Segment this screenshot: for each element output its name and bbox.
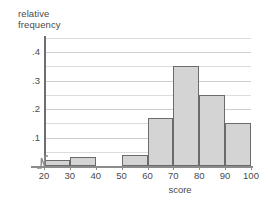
x-axis-line (31, 166, 253, 168)
gridline (44, 52, 251, 53)
x-tick-label: 100 (239, 170, 263, 181)
histogram-bar (225, 123, 251, 166)
x-tick-label: 50 (110, 170, 134, 181)
histogram-bar (173, 66, 199, 166)
x-tick-label: 90 (213, 170, 237, 181)
x-tick-label: 40 (84, 170, 108, 181)
x-tick-label: 80 (187, 170, 211, 181)
histogram-bar (148, 118, 174, 166)
y-tick-label: .4 (18, 46, 40, 57)
gridline (44, 81, 251, 82)
plot-area (44, 38, 251, 166)
x-axis-title: score (150, 184, 210, 195)
histogram-chart: relative frequency .1.2.3.4 203040506070… (0, 0, 268, 202)
histogram-bar (70, 157, 96, 166)
y-axis-title: relative frequency (18, 9, 61, 30)
x-tick-label: 30 (58, 170, 82, 181)
x-tick-label: 60 (136, 170, 160, 181)
x-tick-label: 20 (32, 170, 56, 181)
histogram-bar (122, 155, 148, 166)
y-axis-line (44, 36, 46, 168)
gridline (44, 66, 251, 67)
y-tick-label: .2 (18, 103, 40, 114)
gridline (44, 38, 251, 39)
histogram-bar (199, 95, 225, 166)
y-tick-label: .3 (18, 75, 40, 86)
y-tick-label: .1 (18, 132, 40, 143)
x-tick-label: 70 (161, 170, 185, 181)
